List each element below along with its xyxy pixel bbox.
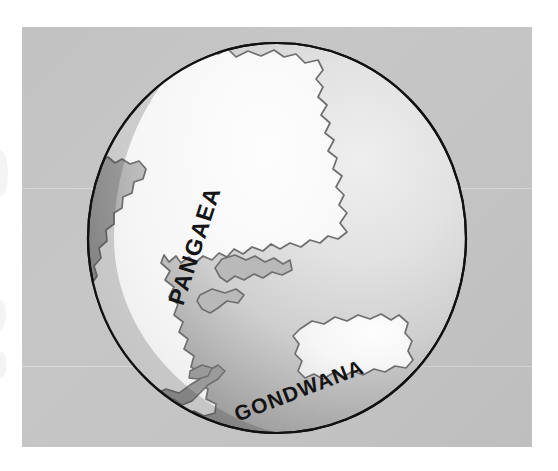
paper-scrap-middle (0, 300, 6, 330)
globe-illustration (22, 27, 532, 447)
paper-scrap-bottom (0, 352, 6, 378)
figure-root: PANGAEA GONDWANA (0, 0, 558, 471)
paper-scrap-top (0, 150, 8, 196)
